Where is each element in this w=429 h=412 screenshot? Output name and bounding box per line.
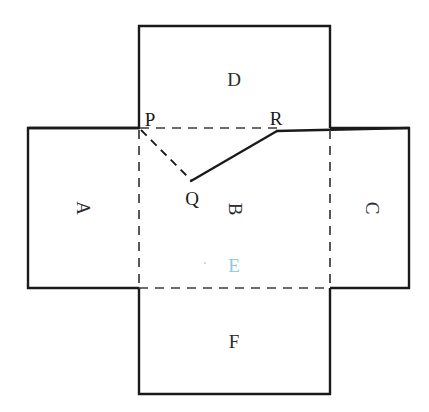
face-label-c: C <box>363 202 382 215</box>
face-label-f: F <box>229 332 240 351</box>
vertex-label-q: Q <box>185 189 199 208</box>
face-label-b: B <box>226 203 245 216</box>
face-label-d: D <box>227 70 241 89</box>
vertex-label-r: R <box>270 109 283 128</box>
cube-net-figure: A B C D E F P Q R <box>0 0 429 412</box>
scan-speck <box>204 262 206 264</box>
face-label-e: E <box>228 256 240 275</box>
vertex-label-p: P <box>145 110 156 129</box>
edge-c-top-solid <box>276 128 409 131</box>
solid-segment-qr <box>191 131 277 181</box>
dashed-segment-pq <box>141 130 191 180</box>
face-label-a: A <box>74 201 93 215</box>
